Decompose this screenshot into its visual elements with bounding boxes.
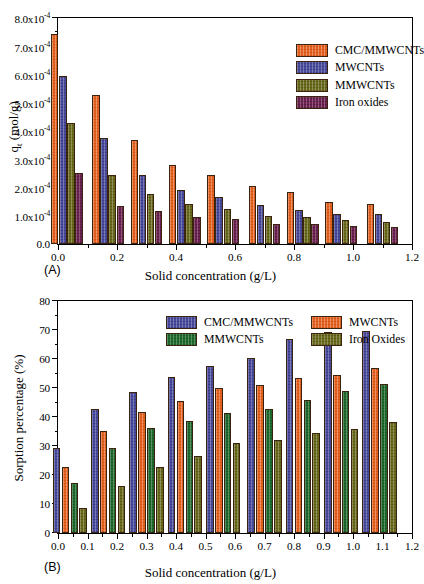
bar [139, 175, 147, 244]
bar [333, 375, 341, 533]
x-axis-minor-tick [265, 244, 266, 248]
x-axis-tick-label: 0.2 [110, 251, 124, 263]
y-axis-tick-label: 50 [39, 382, 58, 394]
x-axis-tick [235, 244, 236, 250]
x-axis-minor-tick [368, 533, 369, 537]
x-axis-minor-tick [279, 533, 280, 537]
bar [371, 368, 379, 533]
bar [311, 224, 319, 244]
legend-label: CMC/MMWCNTs [204, 315, 293, 330]
x-axis-tick-label: 0.4 [169, 251, 183, 263]
x-axis-minor-tick [338, 533, 339, 537]
x-axis-minor-tick [132, 533, 133, 537]
y-axis-minor-tick [55, 315, 59, 316]
x-axis-tick [235, 533, 236, 539]
legend-item: MWCNTs [311, 315, 405, 330]
x-axis-tick [383, 533, 384, 539]
bar [193, 217, 201, 244]
bar [156, 467, 164, 533]
legend-a: CMC/MMWCNTsMWCNTsMMWCNTsIron oxides [296, 42, 424, 112]
legend-swatch [296, 44, 328, 57]
x-axis-tick [176, 244, 177, 250]
legend-swatch [166, 333, 197, 346]
x-axis-tick [58, 244, 59, 250]
legend-item: Iron Oxides [311, 332, 405, 347]
y-axis-minor-tick [55, 431, 59, 432]
x-axis-tick [412, 244, 413, 250]
bar [215, 388, 223, 533]
x-axis-tick [147, 533, 148, 539]
x-axis-tick-label: 1.2 [405, 251, 419, 263]
bar [391, 227, 399, 244]
x-axis-tick-label: 0.1 [81, 540, 95, 552]
bar [207, 175, 215, 244]
x-axis-minor-tick [161, 533, 162, 537]
legend-label: Iron Oxides [349, 332, 405, 347]
bar [232, 219, 240, 244]
bar [185, 204, 193, 244]
x-axis-tick-label: 0.9 [317, 540, 331, 552]
legend-swatch [296, 79, 328, 92]
bar [333, 214, 341, 244]
x-axis-tick [265, 533, 266, 539]
x-axis-tick-label: 0.0 [51, 251, 65, 263]
x-axis-tick [88, 533, 89, 539]
panel-tag-b: (B) [44, 560, 61, 574]
legend-label: MWCNTs [335, 60, 384, 75]
bar [325, 202, 333, 244]
bar [129, 392, 137, 533]
y-axis-title-a: qt (mol/g) [6, 82, 24, 172]
bar [79, 508, 87, 533]
panel-a: 0.01.0x10-42.0x10-43.0x10-44.0x10-45.0x1… [0, 0, 421, 292]
legend-label: CMC/MMWCNTs [335, 43, 424, 58]
x-axis-minor-tick [397, 533, 398, 537]
x-axis-minor-tick [324, 244, 325, 248]
x-axis-tick [294, 533, 295, 539]
bar [367, 204, 375, 244]
x-axis-tick [117, 244, 118, 250]
legend-item: MMWCNTs [166, 332, 293, 347]
x-axis-tick [412, 533, 413, 539]
x-axis-title-b: Solid concentration (g/L) [0, 565, 421, 581]
bar [224, 209, 232, 244]
bar [273, 224, 281, 244]
y-axis-tick-label: 80 [39, 295, 58, 307]
legend-item: CMC/MMWCNTs [166, 315, 293, 330]
x-axis-tick-label: 0.7 [258, 540, 272, 552]
bar [324, 332, 332, 533]
x-axis-tick-label: 0.0 [51, 540, 65, 552]
bar [117, 206, 125, 244]
y-axis-title-b: Sorption percentage (%) [11, 343, 27, 493]
legend-label: MMWCNTs [335, 78, 394, 93]
bar [303, 217, 311, 244]
bar [224, 413, 232, 533]
bar [265, 216, 273, 244]
bar [249, 186, 257, 244]
bar [168, 377, 176, 533]
bar [342, 391, 350, 533]
bar [108, 175, 116, 244]
x-axis-tick-label: 0.8 [287, 540, 301, 552]
legend-swatch [311, 333, 342, 346]
bar [177, 190, 185, 244]
x-axis-tick [176, 533, 177, 539]
x-axis-tick [117, 533, 118, 539]
bar [362, 331, 370, 533]
y-axis-tick-label: 60 [39, 353, 58, 365]
x-axis-minor-tick [220, 533, 221, 537]
x-axis-minor-tick [147, 244, 148, 248]
x-axis-tick [353, 533, 354, 539]
y-axis-tick-label: 40 [39, 411, 58, 423]
y-axis-minor-tick [55, 31, 59, 32]
bar [287, 192, 295, 244]
x-axis-tick-label: 0.3 [140, 540, 154, 552]
bar [215, 197, 223, 244]
y-axis-tick-label: 70 [39, 324, 58, 336]
bar [194, 456, 202, 533]
bar [169, 165, 177, 244]
bar [71, 483, 79, 533]
bar [380, 384, 388, 533]
bar [286, 339, 294, 533]
x-axis-title-a: Solid concentration (g/L) [0, 268, 421, 284]
x-axis-minor-tick [88, 244, 89, 248]
